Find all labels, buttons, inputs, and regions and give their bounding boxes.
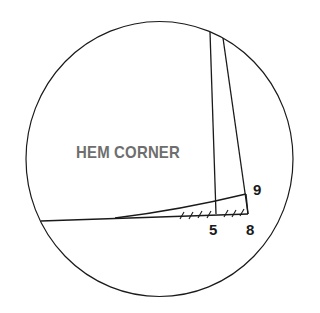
fold-line-8: [223, 38, 248, 214]
point-label-5: 5: [209, 221, 217, 238]
hem-baseline: [41, 214, 248, 221]
hem-corner-label: HEM CORNER: [76, 143, 180, 163]
point-label-9: 9: [253, 181, 261, 198]
fold-line-5: [210, 32, 216, 214]
point-label-8: 8: [246, 221, 254, 238]
